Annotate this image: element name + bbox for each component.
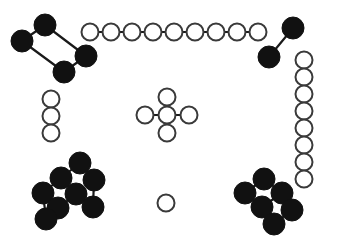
left-open-vertical-chain xyxy=(43,91,60,142)
open-node[interactable] xyxy=(296,137,313,154)
open-node[interactable] xyxy=(82,24,99,41)
filled-node[interactable] xyxy=(53,61,75,83)
filled-node[interactable] xyxy=(263,213,285,235)
open-node[interactable] xyxy=(250,24,267,41)
open-node[interactable] xyxy=(159,107,176,124)
open-node[interactable] xyxy=(124,24,141,41)
filled-node[interactable] xyxy=(83,169,105,191)
filled-node[interactable] xyxy=(258,46,280,68)
bottom-left-filled-fused-rings xyxy=(32,152,105,230)
open-node[interactable] xyxy=(159,125,176,142)
open-node[interactable] xyxy=(137,107,154,124)
open-node[interactable] xyxy=(43,108,60,125)
open-node[interactable] xyxy=(103,24,120,41)
open-node[interactable] xyxy=(181,107,198,124)
open-node[interactable] xyxy=(166,24,183,41)
filled-node[interactable] xyxy=(11,30,33,52)
open-node[interactable] xyxy=(145,24,162,41)
open-node[interactable] xyxy=(296,69,313,86)
open-node[interactable] xyxy=(229,24,246,41)
diagram-canvas xyxy=(0,0,337,246)
open-node[interactable] xyxy=(296,154,313,171)
open-node[interactable] xyxy=(296,120,313,137)
top-open-chain xyxy=(82,24,267,41)
filled-node[interactable] xyxy=(253,168,275,190)
open-node[interactable] xyxy=(43,91,60,108)
filled-node[interactable] xyxy=(282,17,304,39)
open-node[interactable] xyxy=(208,24,225,41)
bottom-right-filled-fused-rings xyxy=(234,168,303,235)
top-left-filled-ring xyxy=(11,14,97,83)
node-graph-svg xyxy=(0,0,337,246)
center-open-cross xyxy=(137,89,198,142)
open-node[interactable] xyxy=(159,89,176,106)
open-node[interactable] xyxy=(296,103,313,120)
filled-node[interactable] xyxy=(75,45,97,67)
right-open-vertical-chain xyxy=(296,52,313,188)
filled-node[interactable] xyxy=(82,196,104,218)
filled-node[interactable] xyxy=(281,199,303,221)
open-node[interactable] xyxy=(187,24,204,41)
isolated-open-node xyxy=(158,195,175,212)
open-node[interactable] xyxy=(296,52,313,69)
open-node[interactable] xyxy=(43,125,60,142)
open-node[interactable] xyxy=(158,195,175,212)
open-node[interactable] xyxy=(296,86,313,103)
filled-node[interactable] xyxy=(34,14,56,36)
filled-node[interactable] xyxy=(35,208,57,230)
open-node[interactable] xyxy=(296,171,313,188)
